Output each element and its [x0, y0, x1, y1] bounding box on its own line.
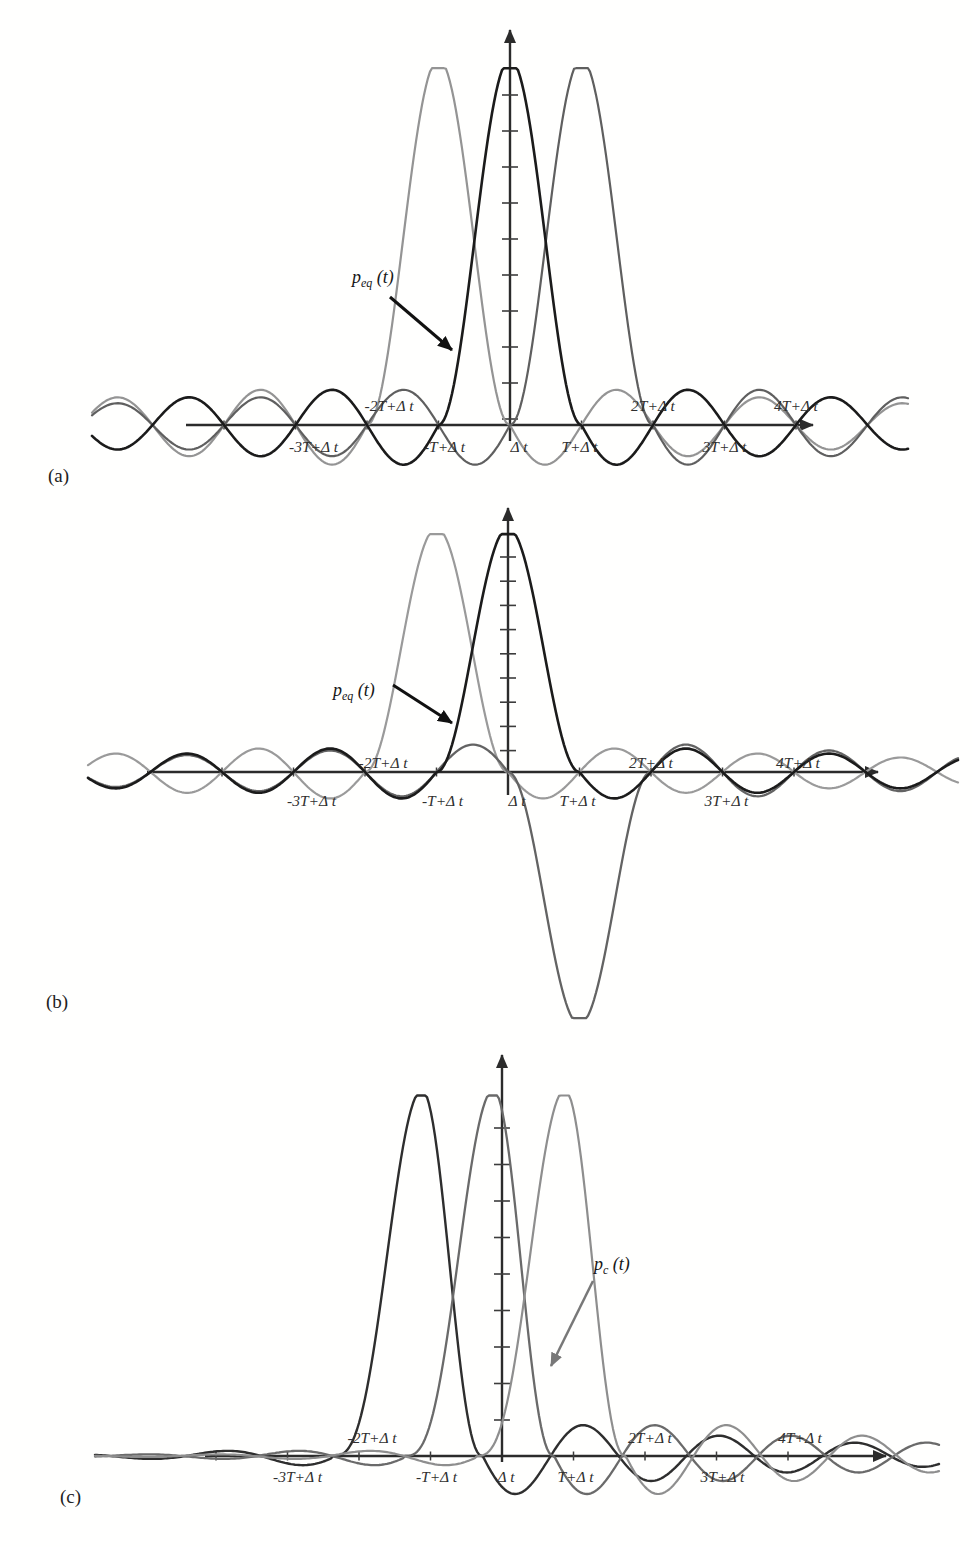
pulse-curve-1-0	[88, 534, 958, 798]
x-tick-label: Δ t	[510, 438, 529, 455]
panel-letter: (b)	[46, 991, 68, 1013]
x-tick-label: 4T+Δ t	[776, 754, 821, 771]
x-tick-label: Δ t	[497, 1468, 516, 1485]
x-tick-label: 3T+Δ t	[702, 438, 748, 455]
x-tick-label: -T+Δ t	[424, 438, 466, 455]
pulse-curve-1-1	[88, 745, 958, 1019]
x-tick-label: T+Δ t	[561, 438, 598, 455]
x-tick-label: 4T+Δ t	[778, 1429, 823, 1446]
x-tick-label: 3T+Δ t	[704, 792, 750, 809]
x-tick-label: Δ t	[508, 792, 527, 809]
x-tick-label: 2T+Δ t	[628, 1429, 673, 1446]
x-tick-label: -2T+Δ t	[365, 397, 415, 414]
pulse-curve-1-2	[88, 534, 958, 798]
pulse-train-figure: -3T+Δ t-2T+Δ t-T+Δ tΔ tT+Δ t2T+Δ t3T+Δ t…	[0, 0, 972, 1547]
x-tick-label: -3T+Δ t	[287, 792, 337, 809]
panel-c: -3T+Δ t-2T+Δ t-T+Δ tΔ tT+Δ t2T+Δ t3T+Δ t…	[60, 1055, 939, 1508]
curve-label-arrow	[390, 297, 452, 350]
curve-label-arrow	[551, 1281, 593, 1366]
x-tick-label: 3T+Δ t	[700, 1468, 746, 1485]
x-tick-label: -2T+Δ t	[348, 1429, 398, 1446]
x-tick-label: 2T+Δ t	[631, 397, 676, 414]
figure-page: -3T+Δ t-2T+Δ t-T+Δ tΔ tT+Δ t2T+Δ t3T+Δ t…	[0, 0, 972, 1547]
x-tick-label: 4T+Δ t	[774, 397, 819, 414]
panel-letter: (c)	[60, 1486, 81, 1508]
curve-label: peq (t)	[350, 267, 394, 290]
x-tick-label: -3T+Δ t	[289, 438, 339, 455]
x-tick-label: -T+Δ t	[416, 1468, 458, 1485]
panel-a: -3T+Δ t-2T+Δ t-T+Δ tΔ tT+Δ t2T+Δ t3T+Δ t…	[48, 30, 908, 487]
x-tick-label: T+Δ t	[559, 792, 596, 809]
panel-b: -3T+Δ t-2T+Δ t-T+Δ tΔ tT+Δ t2T+Δ t3T+Δ t…	[46, 508, 958, 1018]
x-tick-label: -3T+Δ t	[273, 1468, 323, 1485]
curve-label: pc (t)	[592, 1254, 630, 1277]
x-tick-label: -T+Δ t	[422, 792, 464, 809]
panel-letter: (a)	[48, 465, 69, 487]
x-tick-label: -2T+Δ t	[359, 754, 409, 771]
curve-label: peq (t)	[331, 680, 375, 703]
x-tick-label: T+Δ t	[557, 1468, 594, 1485]
x-tick-label: 2T+Δ t	[629, 754, 674, 771]
curve-label-arrow	[393, 685, 452, 723]
